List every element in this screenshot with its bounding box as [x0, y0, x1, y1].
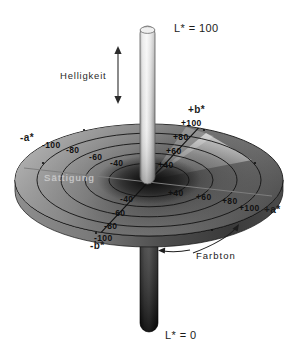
tick-b-negative-80: -80 — [104, 221, 118, 231]
a-positive-axis-label: +a* — [264, 204, 281, 215]
helligkeit-label: Helligkeit — [60, 70, 107, 81]
b-positive-axis-label: +b* — [188, 104, 205, 115]
tick-a-negative-80: -80 — [66, 145, 80, 155]
helligkeit-arrow — [114, 46, 121, 104]
tick-a-positive-40: +40 — [168, 188, 184, 198]
tick-b-negative-40: -40 — [120, 194, 134, 204]
tick-b-negative-60: -60 — [112, 208, 126, 218]
farbton-label: Farbton — [196, 250, 236, 261]
tick-b-positive-80: +80 — [173, 132, 189, 142]
tick-a-negative-100: -100 — [42, 140, 61, 150]
tick-a-positive-60: +60 — [196, 192, 212, 202]
saettigung-label: Sättigung — [44, 172, 95, 183]
lightness-bottom-label: L* = 0 — [165, 329, 196, 341]
cielab-figure: L* = 100 L* = 0 Helligkeit Sättigung Far… — [0, 0, 298, 358]
tick-b-positive-100: +100 — [181, 118, 202, 128]
tick-a-positive-100: +100 — [239, 203, 260, 213]
tick-b-negative-100: -100 — [94, 233, 113, 243]
tick-a-positive-80: +80 — [222, 196, 238, 206]
lightness-top-label: L* = 100 — [174, 22, 219, 34]
tick-b-positive-60: +60 — [166, 146, 182, 156]
a-negative-axis-label: -a* — [20, 132, 34, 143]
tick-a-negative-40: -40 — [110, 158, 124, 168]
tick-b-positive-40: +40 — [158, 160, 174, 170]
lightness-pole-upper — [140, 26, 155, 184]
tick-a-negative-60: -60 — [89, 152, 103, 162]
